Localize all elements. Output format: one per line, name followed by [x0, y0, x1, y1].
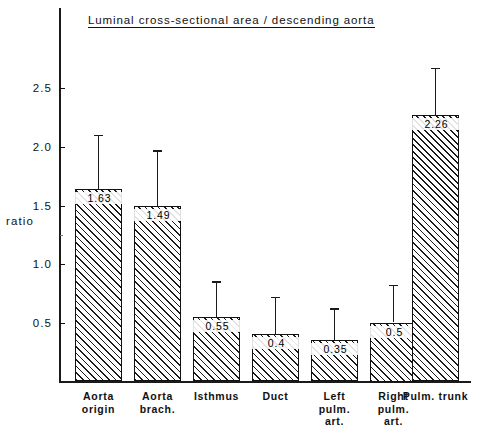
x-axis-category-label: Aorta origin: [68, 390, 130, 415]
bar-value-label: 1.49: [134, 209, 183, 221]
error-bar-cap: [431, 68, 440, 70]
error-bar-cap: [94, 135, 103, 137]
error-bar-stem: [98, 135, 100, 189]
error-bar-stem: [216, 281, 218, 316]
error-bar-stem: [393, 285, 395, 323]
bar-value-label: 1.63: [75, 192, 124, 204]
bar-value-label: 0.35: [311, 343, 360, 355]
x-axis-category-label: Isthmus: [186, 390, 248, 403]
error-bar-stem: [435, 68, 437, 115]
error-bar-cap: [153, 150, 162, 152]
error-bar-cap: [389, 285, 398, 287]
error-bar-cap: [330, 308, 339, 310]
x-axis-category-label: Duct: [245, 390, 307, 403]
error-bar-stem: [334, 308, 336, 340]
bar: [412, 115, 459, 382]
bar: [134, 206, 181, 382]
error-bar-stem: [157, 150, 159, 205]
error-bar-cap: [212, 281, 221, 283]
bar-value-label: 0.55: [193, 320, 242, 332]
bar-value-label: 2.26: [412, 118, 461, 130]
error-bar-cap: [271, 297, 280, 299]
error-bar-stem: [275, 297, 277, 335]
x-axis-category-label: Aorta brach.: [127, 390, 189, 415]
bar-value-label: 0.4: [252, 337, 301, 349]
x-axis-category-label: Pulm. trunk: [394, 390, 478, 403]
bar: [75, 189, 122, 381]
x-axis-category-label: Left pulm. art.: [304, 390, 366, 428]
